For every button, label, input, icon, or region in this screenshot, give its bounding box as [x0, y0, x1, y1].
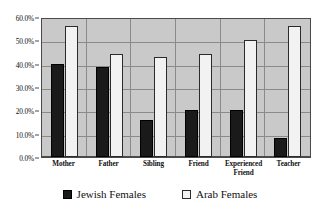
plot-area [41, 18, 311, 158]
y-tick-mark [35, 88, 39, 89]
y-tick-mark [35, 41, 39, 42]
legend-item[interactable]: Jewish Females [63, 188, 146, 200]
y-tick-label: 50.0% [16, 37, 34, 46]
bar-group [42, 19, 87, 157]
bar [244, 40, 257, 157]
bar [199, 54, 212, 157]
bar-group [221, 19, 266, 157]
bar-group [176, 19, 221, 157]
y-tick-label: 20.0% [16, 107, 34, 116]
bar [110, 54, 123, 157]
x-tick-label: Friend [176, 160, 221, 180]
legend-label: Arab Females [196, 188, 257, 200]
bar-chart: 0.0%10.0%20.0%30.0%40.0%50.0%60.0% Mothe… [0, 0, 320, 218]
x-tick-label: Mother [41, 160, 86, 180]
bar-group [131, 19, 176, 157]
bar [230, 110, 243, 157]
x-tick-label: Experienced Friend [221, 160, 266, 180]
bar [185, 110, 198, 157]
y-tick-mark [35, 18, 39, 19]
bar [140, 120, 153, 157]
bars-layer [42, 19, 310, 157]
bar-group [265, 19, 310, 157]
y-axis: 0.0%10.0%20.0%30.0%40.0%50.0%60.0% [0, 18, 39, 158]
y-tick-mark [35, 64, 39, 65]
y-tick-label: 0.0% [19, 154, 34, 163]
x-tick-label: Father [86, 160, 131, 180]
x-axis-line [42, 156, 310, 157]
x-tick-label: Sibling [131, 160, 176, 180]
chart-legend: Jewish FemalesArab Females [0, 188, 320, 200]
legend-label: Jewish Females [77, 188, 146, 200]
light-swatch [182, 190, 191, 199]
y-tick-mark [35, 158, 39, 159]
bar [65, 26, 78, 157]
y-tick-label: 40.0% [16, 60, 34, 69]
y-tick-label: 30.0% [16, 84, 34, 93]
y-tick-mark [35, 111, 39, 112]
dark-swatch [63, 190, 72, 199]
x-tick-label: Teacher [266, 160, 311, 180]
bar [96, 67, 109, 157]
y-tick-mark [35, 134, 39, 135]
bar-group [87, 19, 132, 157]
bar [51, 64, 64, 157]
bar [288, 26, 301, 157]
x-axis-labels: MotherFatherSiblingFriendExperienced Fri… [41, 160, 311, 180]
y-tick-label: 60.0% [16, 14, 34, 23]
bar [154, 57, 167, 157]
y-tick-label: 10.0% [16, 130, 34, 139]
bar [274, 138, 287, 157]
legend-item[interactable]: Arab Females [182, 188, 257, 200]
